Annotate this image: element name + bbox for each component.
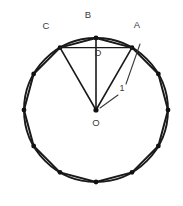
polygon-vertex — [94, 180, 99, 185]
radius-measure-label: 1 — [119, 83, 124, 93]
point-label-o: O — [92, 117, 99, 128]
polygon-vertex — [130, 170, 135, 175]
polygon-vertex — [58, 170, 63, 175]
polygon-vertex — [31, 72, 36, 77]
polygon-vertex — [166, 108, 171, 113]
point-label-a: A — [134, 19, 141, 30]
polygon-vertex — [156, 144, 161, 149]
figure-canvas: A B C D O 1 — [0, 0, 183, 206]
polygon-vertex — [22, 108, 27, 113]
point-label-d: D — [95, 47, 102, 58]
geometry-figure: A B C D O 1 — [0, 0, 183, 206]
polygon-vertex — [31, 144, 36, 149]
center-point-o — [93, 107, 98, 112]
point-label-b: B — [85, 9, 91, 20]
point-label-c: C — [43, 20, 50, 31]
polygon-vertex — [156, 72, 161, 77]
